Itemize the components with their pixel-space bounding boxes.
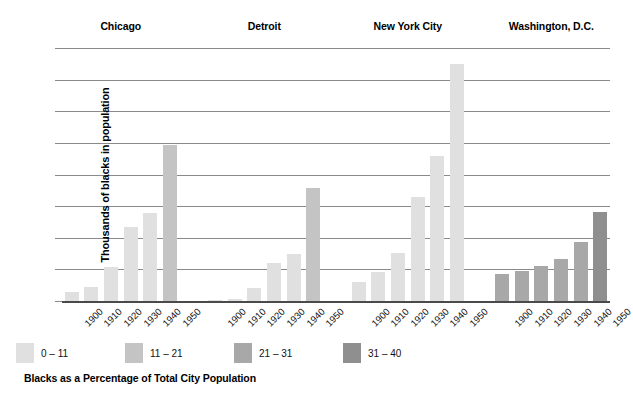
x-axis-baseline <box>62 301 610 303</box>
bar <box>495 274 509 302</box>
legend-caption: Blacks as a Percentage of Total City Pop… <box>24 372 256 384</box>
bar <box>65 292 79 301</box>
y-axis-tick <box>55 175 62 176</box>
x-axis-tick-label: 1910 <box>532 306 555 329</box>
city-group-label: New York City <box>349 20 467 32</box>
gridline <box>62 143 610 144</box>
x-axis-tick-label: 1940 <box>304 306 327 329</box>
x-axis-tick-label: 1940 <box>591 306 614 329</box>
legend-swatch <box>16 343 34 363</box>
x-axis-tick-label: 1950 <box>323 306 346 329</box>
x-axis-tick-label: 1950 <box>610 306 633 329</box>
bar <box>143 213 157 301</box>
bar <box>352 282 366 301</box>
y-axis-tick <box>55 269 62 270</box>
bar <box>163 145 177 301</box>
city-group-label: Washington, D.C. <box>493 20 611 32</box>
bar <box>247 288 261 301</box>
y-axis-tick <box>55 143 62 144</box>
bar <box>534 266 548 301</box>
legend-label: 31 – 40 <box>368 348 401 359</box>
y-axis-title: Thousands of blacks in population <box>99 87 111 262</box>
x-axis-tick-label: 1910 <box>245 306 268 329</box>
legend-label: 21 – 31 <box>259 348 292 359</box>
bar <box>371 272 385 301</box>
x-axis-tick-label: 1920 <box>408 306 431 329</box>
bar <box>267 263 281 301</box>
bar <box>208 300 222 301</box>
x-axis-tick-label: 1930 <box>284 306 307 329</box>
x-axis-tick-label: 1900 <box>225 306 248 329</box>
x-axis-tick-label: 1920 <box>265 306 288 329</box>
legend-swatch <box>343 343 361 363</box>
y-axis-tick <box>55 48 62 49</box>
bar <box>391 253 405 301</box>
legend-swatch <box>234 343 252 363</box>
y-axis-tick <box>55 238 62 239</box>
gridline <box>62 206 610 207</box>
x-axis-tick-label: 1920 <box>121 306 144 329</box>
city-group-label: Detroit <box>206 20 324 32</box>
x-axis-tick-label: 1900 <box>369 306 392 329</box>
bar <box>593 212 607 301</box>
plot-area: 0100200300400500600700800Thousands of bl… <box>62 48 610 301</box>
x-axis-tick-label: 1930 <box>571 306 594 329</box>
bar <box>430 156 444 301</box>
x-axis-tick-label: 1930 <box>428 306 451 329</box>
bar <box>228 299 242 301</box>
y-axis-tick <box>55 80 62 81</box>
x-axis-tick-label: 1930 <box>141 306 164 329</box>
y-axis-tick <box>55 111 62 112</box>
bar <box>124 227 138 301</box>
bar <box>574 242 588 301</box>
x-axis-tick-label: 1900 <box>512 306 535 329</box>
city-group-label: Chicago <box>62 20 180 32</box>
city-header-row: ChicagoDetroitNew York CityWashington, D… <box>62 20 610 36</box>
x-axis-tick-label: 1920 <box>552 306 575 329</box>
x-axis-tick-label: 1940 <box>160 306 183 329</box>
x-axis-tick-label: 1940 <box>447 306 470 329</box>
bar <box>84 287 98 301</box>
y-axis-tick <box>55 206 62 207</box>
y-axis-tick <box>55 301 62 302</box>
x-axis-tick-label: 1900 <box>82 306 105 329</box>
bar <box>515 271 529 301</box>
bar <box>450 64 464 301</box>
bar <box>287 254 301 301</box>
gridline <box>62 48 610 49</box>
bar <box>554 259 568 301</box>
bar <box>306 188 320 301</box>
x-axis-tick-label: 1950 <box>180 306 203 329</box>
gridline <box>62 111 610 112</box>
x-axis-tick-label: 1910 <box>102 306 125 329</box>
bar <box>411 197 425 301</box>
legend-label: 0 – 11 <box>41 348 68 359</box>
gridline <box>62 175 610 176</box>
legend-label: 11 – 21 <box>150 348 183 359</box>
x-axis-tick-label: 1910 <box>389 306 412 329</box>
x-axis-tick-label: 1950 <box>467 306 490 329</box>
legend-swatch <box>125 343 143 363</box>
gridline <box>62 80 610 81</box>
bar <box>104 267 118 301</box>
